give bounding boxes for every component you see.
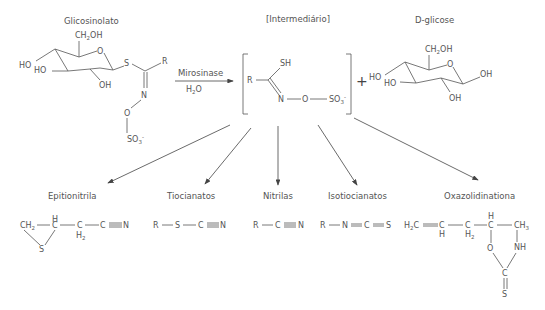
product-oxazolidinationa: Oxazolidinationa H2C C H C H2 H C CH3 O … [404, 191, 530, 299]
svg-text:H2C: H2C [404, 221, 420, 231]
svg-text:C: C [275, 221, 281, 230]
arrow-tiocianatos [205, 128, 251, 184]
glucose-structure: D-glicose CH2OH O HO HO OH OH [369, 15, 492, 103]
intermediate-label: [Intermediário] [266, 14, 330, 24]
glucose-ho-1: HO [369, 73, 381, 82]
svg-text:C: C [439, 221, 445, 230]
glucose-ring-oxygen: O [447, 60, 453, 69]
arrow-oxazolidinationa [354, 118, 478, 180]
intermediate-structure: [Intermediário] R SH N O SO3- [243, 14, 351, 114]
intermediate-oxygen: O [302, 95, 308, 104]
right-bracket [346, 54, 351, 114]
product-nitrilas: Nitrilas R C N [253, 191, 304, 230]
oh-group: OH [99, 81, 111, 90]
svg-text:CH3: CH3 [514, 221, 530, 231]
glucosinolate-label: Glicosinolato [64, 16, 119, 26]
c-atom-2: C [77, 221, 83, 230]
svg-text:R: R [153, 221, 159, 230]
svg-text:C: C [364, 221, 370, 230]
glucose-ch2oh: CH2OH [425, 45, 452, 55]
svg-text:C: C [502, 269, 508, 278]
ring-oxygen: O [97, 47, 103, 56]
svg-text:N: N [298, 221, 304, 230]
arrow-isotiocianatos [318, 125, 357, 185]
branch-arrows [108, 118, 478, 185]
ho-group-2: HO [34, 66, 46, 75]
glucose-label: D-glicose [415, 15, 454, 25]
tiocianatos-label: Tiocianatos [166, 191, 216, 201]
oxazolidinationa-label: Oxazolidinationa [444, 191, 515, 201]
oxygen-atom: O [124, 109, 130, 118]
glucosinolate-structure: Glicosinolato CH2OH O HO HO OH S R N O S… [19, 16, 168, 145]
ch2oh-group: CH2OH [75, 31, 102, 41]
svg-text:NH: NH [514, 243, 526, 252]
svg-text:C: C [198, 221, 204, 230]
isotiocianatos-label: Isotiocianatos [328, 191, 387, 201]
s-atom: S [39, 245, 44, 254]
r-group: R [162, 57, 168, 66]
reaction-diagram: Glicosinolato CH2OH O HO HO OH S R N O S… [0, 0, 545, 310]
arrow-epitionitrila [108, 125, 230, 183]
so3-group: SO3- [127, 134, 144, 145]
sulfur-atom: S [124, 59, 129, 68]
c-atom-3: C [100, 221, 106, 230]
glucose-oh-1: OH [480, 70, 492, 79]
ch2-atom: CH2 [20, 221, 35, 231]
svg-text:S: S [175, 221, 180, 230]
svg-text:S: S [386, 221, 391, 230]
svg-text:O: O [487, 244, 493, 253]
product-tiocianatos: Tiocianatos R S C N [153, 191, 226, 230]
epitionitrila-label: Epitionitrila [48, 191, 97, 201]
plus-sign: + [356, 73, 368, 89]
sh-group: SH [280, 59, 291, 68]
enzyme-label: Mirosinase [178, 68, 223, 78]
svg-text:H: H [488, 212, 494, 221]
svg-text:R: R [320, 221, 326, 230]
water-label: H2O [186, 85, 202, 95]
intermediate-r-group: R [247, 76, 253, 85]
svg-text:H2: H2 [465, 230, 475, 240]
h2-atom: H2 [76, 231, 86, 241]
svg-text:C: C [488, 221, 494, 230]
product-isotiocianatos: Isotiocianatos R N C S [320, 191, 391, 230]
intermediate-so3: SO3- [329, 94, 346, 105]
nitrilas-label: Nitrilas [263, 191, 293, 201]
glucose-oh-2: OH [449, 94, 461, 103]
nitrogen-atom: N [141, 91, 147, 100]
c-atom-1: C [52, 221, 58, 230]
n-atom: N [123, 221, 129, 230]
enzyme-arrow: Mirosinase H2O [175, 68, 233, 95]
product-epitionitrila: Epitionitrila CH2 H C S C H2 C N [20, 191, 129, 254]
glucose-ho-2: HO [384, 79, 396, 88]
svg-text:C: C [465, 221, 471, 230]
svg-text:R: R [253, 221, 259, 230]
svg-text:S: S [502, 290, 507, 299]
ho-group-1: HO [19, 61, 31, 70]
svg-text:N: N [220, 221, 226, 230]
intermediate-nitrogen: N [278, 95, 284, 104]
svg-text:H: H [439, 230, 445, 239]
svg-text:N: N [342, 221, 348, 230]
